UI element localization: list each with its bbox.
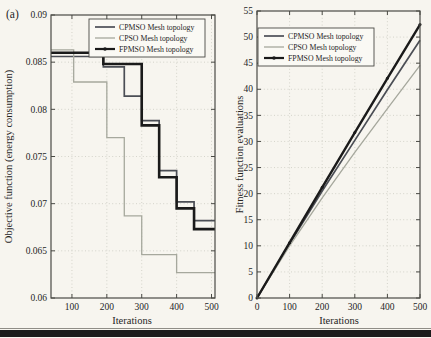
y-axis-label: Fitness function evaluations	[234, 96, 245, 214]
series-line-cpso	[257, 65, 420, 298]
series-marker	[321, 186, 324, 189]
x-tick-label: 100	[282, 302, 297, 312]
legend-entry-label: FPMSO Mesh topology	[288, 54, 363, 63]
bottom-rule-thin	[0, 328, 431, 329]
legend-entry-label: CPMSO Mesh topology	[288, 32, 363, 41]
series-marker	[353, 131, 356, 134]
x-tick-label: 100	[65, 302, 80, 312]
y-tick-label: 0.09	[30, 10, 47, 20]
y-tick-label: 55	[244, 6, 254, 16]
legend: CPMSO Mesh topologyCPSO Mesh topologyFPM…	[89, 19, 205, 57]
y-tick-label: 0.08	[30, 105, 47, 115]
evaluations-chart: 01002003004005000510152025303540455055It…	[234, 6, 427, 326]
legend-marker-sample	[103, 47, 107, 51]
y-tick-label: 0	[248, 293, 253, 303]
x-tick-label: 300	[135, 302, 150, 312]
series-line-cpmso	[51, 57, 215, 221]
legend-entry-label: CPSO Mesh topology	[288, 43, 357, 52]
x-tick-label: 200	[315, 302, 330, 312]
x-tick-label: 500	[204, 302, 219, 312]
legend: CPMSO Mesh topologyCPSO Mesh topologyFPM…	[258, 28, 374, 66]
series-marker	[288, 241, 291, 244]
y-tick-label: 50	[244, 32, 254, 42]
x-tick-label: 400	[380, 302, 395, 312]
charts-canvas: 1002003004005000.060.0650.070.0750.080.0…	[0, 0, 431, 338]
y-tick-label: 40	[244, 84, 254, 94]
y-tick-label: 0.065	[26, 246, 48, 256]
y-tick-label: 5	[248, 267, 253, 277]
x-tick-label: 200	[100, 302, 115, 312]
x-tick-label: 300	[348, 302, 363, 312]
y-tick-label: 10	[244, 241, 254, 251]
y-tick-label: 15	[244, 215, 254, 225]
y-tick-label: 0.075	[26, 152, 48, 162]
x-tick-label: 400	[169, 302, 184, 312]
series-marker	[386, 77, 389, 80]
x-axis-label: Iterations	[112, 315, 152, 326]
y-tick-label: 0.06	[30, 293, 47, 303]
figure-page: (a) 1002003004005000.060.0650.070.0750.0…	[0, 0, 431, 338]
bottom-rule-thick	[0, 330, 431, 337]
x-axis-label: Iterations	[319, 315, 359, 326]
series-line-fpmso	[51, 53, 215, 229]
legend-entry-label: CPMSO Mesh topology	[119, 23, 194, 32]
y-tick-label: 0.085	[26, 57, 48, 67]
y-axis-label: Objective function (energy consumption)	[3, 69, 15, 243]
legend-marker-sample	[272, 56, 276, 60]
x-tick-label: 500	[413, 302, 428, 312]
legend-entry-label: FPMSO Mesh topology	[119, 45, 194, 54]
y-tick-label: 0.07	[30, 199, 47, 209]
legend-entry-label: CPSO Mesh topology	[119, 34, 188, 43]
y-tick-label: 45	[244, 58, 254, 68]
series-line-cpso	[51, 50, 215, 273]
x-tick-label: 0	[255, 302, 260, 312]
objective-chart: 1002003004005000.060.0650.070.0750.080.0…	[3, 10, 219, 326]
